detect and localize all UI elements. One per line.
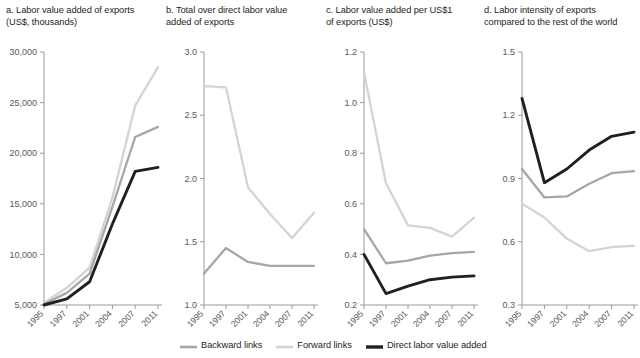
x-tick-label: 1995 <box>503 308 524 329</box>
y-tick-label: 20,000 <box>9 148 37 158</box>
x-tick-label: 2007 <box>273 308 294 329</box>
x-tick-label: 2001 <box>70 308 91 329</box>
y-tick-label: 10,000 <box>9 250 37 260</box>
y-tick-label: 30,000 <box>9 47 37 57</box>
y-tick-label: 1.5 <box>184 237 197 247</box>
y-tick-label: 0.6 <box>344 199 357 209</box>
series-line <box>204 86 314 238</box>
panel-a-plot: 5,00010,00015,00020,00025,00030,00019951… <box>0 0 162 330</box>
y-tick-label: 1.2 <box>344 47 357 57</box>
chart-legend: Backward links Forward links Direct labo… <box>0 332 640 358</box>
panel-c-plot: 0.20.40.60.81.01.21995199720012004200720… <box>322 0 480 330</box>
x-tick-label: 1997 <box>207 308 228 329</box>
x-tick-label: 2011 <box>295 308 315 328</box>
legend-swatch-direct-labor-value-added <box>366 336 383 354</box>
y-tick-label: 2.5 <box>184 110 197 120</box>
y-tick-label: 3.0 <box>184 47 197 57</box>
legend-swatch-forward-links <box>276 336 293 354</box>
x-tick-label: 2004 <box>93 308 114 329</box>
x-tick-label: 2001 <box>229 308 250 329</box>
panel-d-plot: 0.30.60.91.21.5199519972001200420072011 <box>480 0 640 330</box>
x-tick-label: 2001 <box>389 308 410 329</box>
y-tick-label: 5,000 <box>14 300 37 310</box>
legend-swatch-backward-links <box>180 336 197 354</box>
series-line <box>522 204 634 251</box>
y-tick-label: 2.0 <box>184 174 197 184</box>
series-line <box>364 229 474 263</box>
x-tick-label: 1997 <box>367 308 388 329</box>
x-tick-label: 1995 <box>185 308 206 329</box>
y-tick-label: 0.8 <box>344 148 357 158</box>
series-line <box>364 254 474 293</box>
y-tick-label: 1.0 <box>184 300 197 310</box>
legend-label-forward-links: Forward links <box>297 340 352 350</box>
x-tick-label: 2011 <box>615 308 635 328</box>
x-tick-label: 2004 <box>411 308 432 329</box>
y-tick-label: 0.9 <box>502 174 515 184</box>
x-tick-label: 2004 <box>570 308 591 329</box>
x-tick-label: 1997 <box>525 308 546 329</box>
panel-row: a. Labor value added of exports (US$, th… <box>0 0 640 330</box>
legend-item-forward-links: Forward links <box>276 336 352 354</box>
x-tick-label: 2011 <box>139 308 159 328</box>
y-tick-label: 0.3 <box>502 300 515 310</box>
panel-c: c. Labor value added per US$1 of exports… <box>322 0 480 330</box>
x-tick-label: 2011 <box>455 308 475 328</box>
legend-label-backward-links: Backward links <box>201 340 262 350</box>
x-tick-label: 1995 <box>345 308 366 329</box>
legend-label-direct-labor-value-added: Direct labor value added <box>387 340 487 350</box>
series-line <box>364 72 474 236</box>
series-line <box>44 127 158 304</box>
y-tick-label: 0.4 <box>344 250 357 260</box>
x-tick-label: 1995 <box>25 308 46 329</box>
y-tick-label: 15,000 <box>9 199 37 209</box>
panel-a: a. Labor value added of exports (US$, th… <box>0 0 162 330</box>
series-line <box>522 169 634 197</box>
panel-b: b. Total over direct labor value added o… <box>162 0 322 330</box>
figure-container: a. Labor value added of exports (US$, th… <box>0 0 640 358</box>
x-tick-label: 2007 <box>433 308 454 329</box>
x-tick-label: 2004 <box>251 308 272 329</box>
y-tick-label: 25,000 <box>9 98 37 108</box>
series-line <box>522 98 634 182</box>
panel-d: d. Labor intensity of exports compared t… <box>480 0 640 330</box>
series-line <box>204 248 314 273</box>
x-tick-label: 2001 <box>548 308 569 329</box>
y-tick-label: 1.5 <box>502 47 515 57</box>
legend-item-direct-labor-value-added: Direct labor value added <box>366 336 487 354</box>
legend-item-backward-links: Backward links <box>180 336 262 354</box>
x-tick-label: 2007 <box>116 308 137 329</box>
y-tick-label: 0.6 <box>502 237 515 247</box>
series-line <box>44 67 158 303</box>
y-tick-label: 0.2 <box>344 300 357 310</box>
x-tick-label: 1997 <box>48 308 69 329</box>
y-tick-label: 1.0 <box>344 98 357 108</box>
x-tick-label: 2007 <box>592 308 613 329</box>
panel-b-plot: 1.01.52.02.53.0199519972001200420072011 <box>162 0 322 330</box>
y-tick-label: 1.2 <box>502 110 515 120</box>
